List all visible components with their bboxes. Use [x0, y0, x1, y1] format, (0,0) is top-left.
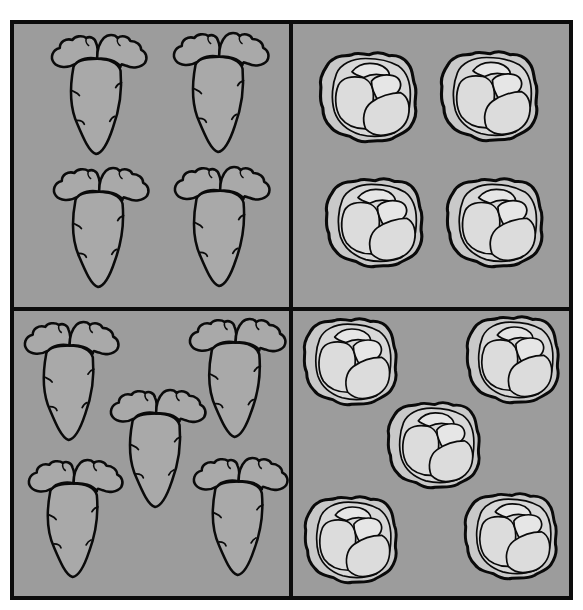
carrot-item [50, 33, 148, 157]
carrot-icon [23, 320, 120, 443]
carrot-item [23, 320, 120, 443]
carrot-icon [52, 166, 150, 290]
cabbage-icon [302, 493, 402, 585]
cabbage-icon [317, 49, 422, 144]
cabbage-item [385, 399, 485, 490]
cabbage-item [464, 313, 564, 405]
carrot-icon [27, 458, 124, 580]
carrot-item [173, 165, 271, 289]
cabbage-icon [464, 313, 564, 405]
cabbage-icon [385, 399, 485, 490]
carrot-item [172, 31, 270, 155]
carrot-item [27, 458, 124, 580]
cabbage-icon [462, 490, 562, 581]
carrot-item [192, 456, 289, 578]
cabbage-item [444, 175, 548, 269]
cabbage-icon [323, 175, 428, 269]
cabbage-item [317, 49, 422, 144]
cabbage-icon [438, 48, 543, 143]
horizontal-divider [10, 307, 573, 311]
cabbage-icon [301, 315, 402, 407]
carrot-icon [192, 456, 289, 578]
cabbage-icon [444, 175, 548, 269]
cabbage-item [323, 175, 428, 269]
carrot-icon [173, 165, 271, 289]
cabbage-item [302, 493, 402, 585]
cabbage-item [438, 48, 543, 143]
cabbage-item [301, 315, 402, 407]
carrot-icon [50, 33, 148, 157]
carrot-item [52, 166, 150, 290]
cabbage-item [462, 490, 562, 581]
carrot-icon [172, 31, 270, 155]
